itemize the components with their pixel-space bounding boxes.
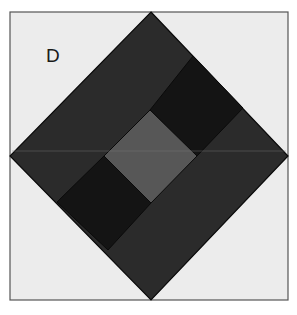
panel-label: D <box>46 45 60 66</box>
nested-squares-diagram: D <box>0 0 297 315</box>
